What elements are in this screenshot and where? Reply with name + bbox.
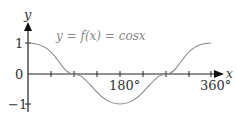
y-tick-0: 0 bbox=[15, 67, 23, 82]
x-tick-180: 180° bbox=[109, 78, 140, 93]
x-tick-360: 360° bbox=[200, 78, 231, 93]
y-axis-arrow-icon bbox=[24, 22, 32, 31]
x-axis-arrow-icon bbox=[214, 70, 224, 78]
y-axis-label: y bbox=[23, 7, 32, 22]
y-tick-minus1: −1 bbox=[8, 97, 27, 112]
cosine-graph: y x 1 0 −1 180° 360° y = f(x) = cosx bbox=[0, 0, 237, 116]
equation-label: y = f(x) = cosx bbox=[55, 29, 146, 43]
y-tick-1: 1 bbox=[15, 36, 23, 51]
